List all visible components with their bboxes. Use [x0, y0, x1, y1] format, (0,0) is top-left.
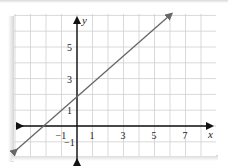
x-tick-label: 7	[183, 130, 188, 141]
x-tick-label: 5	[152, 130, 157, 141]
x-tick-label: 1	[90, 130, 95, 141]
y-tick-label: 5	[67, 42, 72, 53]
x-axis-label: x	[207, 128, 213, 140]
y-tick-label: 3	[67, 74, 72, 85]
x-tick-label: 3	[121, 130, 126, 141]
coordinate-plane: −11357 −1135 x y	[0, 0, 228, 168]
y-tick-label: 1	[67, 105, 72, 116]
y-tick-label: −1	[64, 137, 75, 148]
y-axis-label: y	[81, 14, 87, 26]
